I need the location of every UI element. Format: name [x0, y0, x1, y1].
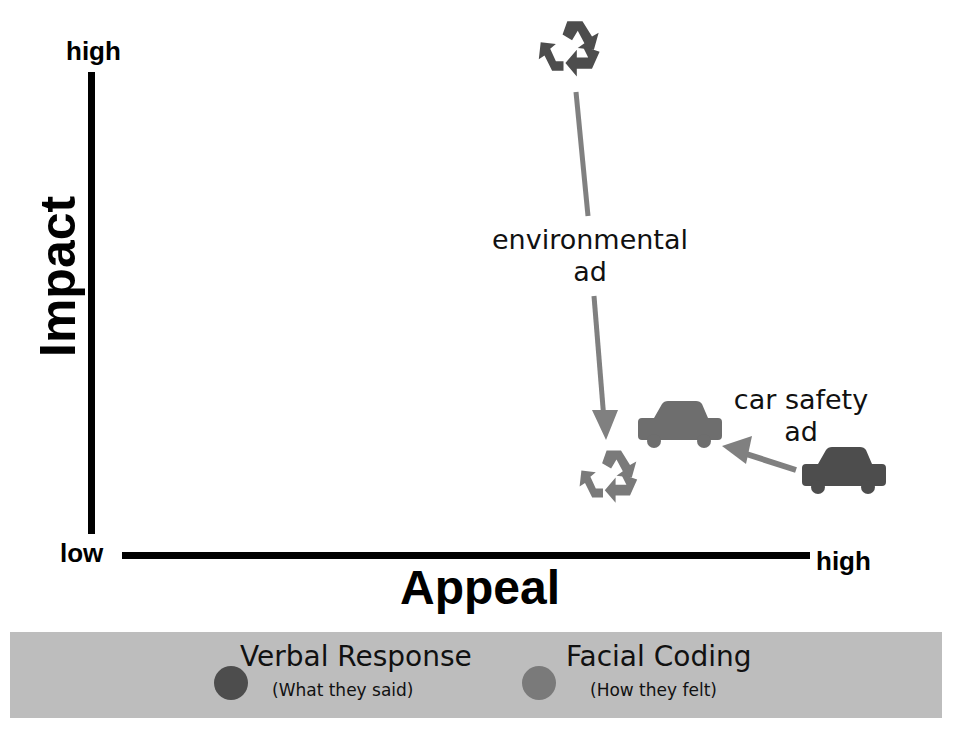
facial-coding-label: Facial Coding — [566, 640, 751, 673]
car-safety-ad-arrow — [740, 452, 796, 470]
verbal-response-label: Verbal Response — [240, 640, 472, 673]
legend: Verbal Response (What they said) Facial … — [10, 632, 942, 718]
x-axis-line — [122, 552, 810, 559]
environmental-ad-arrow-lower — [594, 296, 604, 420]
car-safety-ad-label-line2: ad — [716, 416, 886, 448]
legend-item-verbal-response: Verbal Response (What they said) — [206, 632, 446, 718]
environmental-ad-label: environmental ad — [470, 224, 710, 288]
recycle-icon-verbal — [539, 21, 600, 76]
car-safety-ad-label-line1: car safety — [716, 384, 886, 416]
environmental-ad-arrow — [576, 92, 588, 216]
car-icon-verbal — [802, 447, 886, 494]
legend-item-facial-coding: Facial Coding (How they felt) — [514, 632, 754, 718]
recycle-icon-facial — [580, 451, 638, 503]
facial-coding-dot-icon — [522, 666, 556, 700]
environmental-ad-label-line1: environmental — [470, 224, 710, 256]
car-icon-facial — [638, 401, 722, 448]
facial-coding-sublabel: (How they felt) — [590, 680, 717, 700]
car-safety-ad-label: car safety ad — [716, 384, 886, 448]
environmental-ad-label-line2: ad — [470, 256, 710, 288]
environmental-arrowhead-icon — [592, 410, 618, 440]
plot-area — [0, 0, 963, 632]
verbal-response-sublabel: (What they said) — [272, 680, 414, 700]
y-axis-line — [88, 72, 95, 534]
